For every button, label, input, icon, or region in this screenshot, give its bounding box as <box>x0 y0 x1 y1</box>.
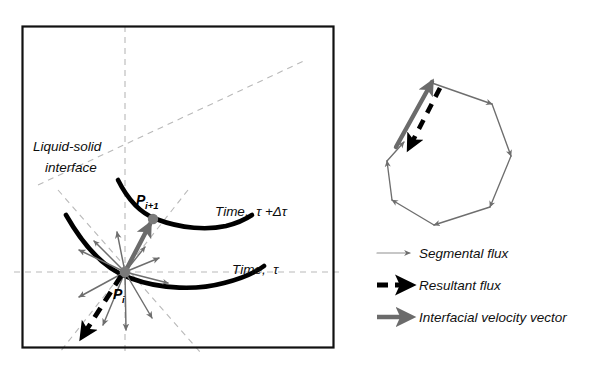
legend-item-interfacial-velocity-vector: Interfacial velocity vector <box>377 310 567 325</box>
segmental-flux-arrows <box>79 232 168 330</box>
heptagon-edge-arrows <box>387 83 511 225</box>
heptagon-edge-arrow-4 <box>434 207 490 225</box>
node-dot-pi <box>120 267 131 278</box>
heptagon-edge-arrow-5 <box>392 200 434 225</box>
legend-label-resultant-flux: Resultant flux <box>419 278 502 293</box>
guide-lines <box>14 26 341 354</box>
figure-root: Liquid-solid interface Time, τ +Δτ Time,… <box>0 0 600 372</box>
segmental-flux-arrow-8 <box>125 272 126 330</box>
panel-border-box <box>23 27 334 348</box>
heptagon-edge-arrow-1 <box>432 83 492 104</box>
heptagon-edge-arrow-2 <box>492 104 511 156</box>
interface-label-line1: Liquid-solid <box>33 139 102 154</box>
flux-legend: Segmental flux Resultant flux Interfacia… <box>377 246 567 325</box>
legend-label-segmental-flux: Segmental flux <box>419 246 510 261</box>
heptagon-edge-arrow-3 <box>490 156 511 207</box>
heptagon-edge-arrow-6 <box>387 161 392 200</box>
interface-label-line2: interface <box>45 160 97 175</box>
point-label-pi-plus-1-subscript: i+1 <box>145 200 158 211</box>
interfacial-velocity-vector <box>125 224 150 272</box>
time-lower-label: Time, τ <box>232 262 279 277</box>
diagram-canvas: Liquid-solid interface Time, τ +Δτ Time,… <box>0 0 600 372</box>
node-dot-pi-plus-1 <box>148 214 158 224</box>
polygon-flux-panel <box>387 82 511 225</box>
liquid-solid-interface-panel: Liquid-solid interface Time, τ +Δτ Time,… <box>14 26 341 354</box>
legend-item-resultant-flux: Resultant flux <box>377 278 502 293</box>
point-label-pi-subscript: i <box>122 294 125 305</box>
legend-label-interfacial-velocity-vector: Interfacial velocity vector <box>419 310 567 325</box>
legend-item-segmental-flux: Segmental flux <box>377 246 510 261</box>
segmental-flux-arrow-1 <box>79 250 125 272</box>
time-upper-label: Time, τ +Δτ <box>215 204 288 219</box>
